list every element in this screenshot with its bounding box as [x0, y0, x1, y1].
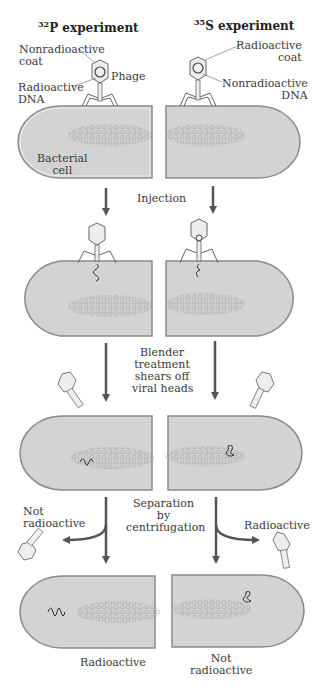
label-nonradioactive-dna-right: NonradioactiveDNA: [222, 78, 308, 102]
bacterial-cell-right-row3: [165, 416, 302, 490]
sheared-head-left: [58, 372, 83, 408]
step-blender-treatment: Blendertreatmentshears offviral heads: [132, 347, 192, 395]
label-radioactive-dna-left: RadioactiveDNA: [18, 82, 84, 106]
bacterial-cell-right-row4: [172, 575, 304, 647]
step-separation-centrifugation: Separationbycentrifugation: [126, 498, 201, 534]
bacterial-cell-left-row3: [20, 416, 154, 490]
title-35s-experiment: 35S experiment: [194, 17, 294, 33]
bacterial-cell-left-row2: [25, 261, 152, 336]
result-left-supernatant: Notradioactive: [23, 506, 85, 530]
result-left-pellet: Radioactive: [80, 657, 146, 669]
bacterial-cell-right-row2: [165, 261, 293, 336]
result-right-supernatant: Radioactive: [244, 520, 310, 532]
bacterial-cell-left-row4: [20, 576, 160, 648]
label-phage: Phage: [111, 71, 146, 83]
sheared-head-right: [250, 372, 274, 408]
label-radioactive-coat-right: Radioactivecoat: [236, 40, 302, 64]
label-nonradioactive-coat-left: Nonradioactivecoat: [19, 44, 105, 68]
title-32p-experiment: 32P experiment: [38, 19, 139, 35]
label-bacterial-cell: Bacterialcell: [37, 153, 88, 177]
step-injection: Injection: [137, 193, 186, 205]
separated-head-right: [273, 532, 290, 568]
phage-right-row1: [180, 57, 216, 106]
result-right-pellet: Notradioactive: [190, 653, 252, 677]
bacterial-cell-right-row1: [165, 106, 300, 178]
separated-head-left: [18, 528, 43, 560]
